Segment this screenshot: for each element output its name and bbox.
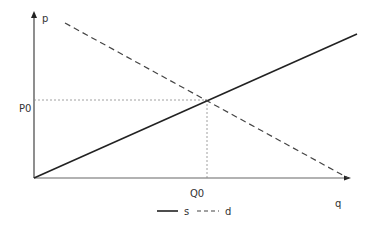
demand-line xyxy=(65,23,348,178)
q0-tick-label: Q0 xyxy=(190,188,204,199)
p0-tick-label: P0 xyxy=(19,103,31,114)
y-axis-arrow-icon xyxy=(31,11,37,18)
supply-demand-chart: p q P0 Q0 s d xyxy=(0,0,375,226)
p-axis-label: p xyxy=(42,13,48,24)
legend: s d xyxy=(157,206,231,217)
legend-demand-label: d xyxy=(225,206,231,217)
q-axis-label: q xyxy=(335,198,341,209)
supply-line xyxy=(34,34,357,178)
legend-supply-label: s xyxy=(184,206,189,217)
